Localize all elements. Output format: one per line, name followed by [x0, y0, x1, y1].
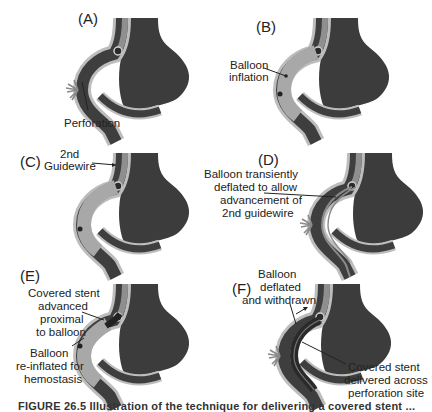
annotation-e-6: re-inflated for [16, 359, 84, 373]
annotation-e-2: advanced [38, 299, 88, 313]
annotation-e-1: Covered stent [28, 286, 100, 300]
annotation-d-3: advancement of [220, 193, 302, 207]
annotation-f-6: perforation site [348, 386, 424, 400]
panel-d: (D) Balloon transiently deflated to allo… [216, 135, 432, 270]
panel-f: (F) Balloon deflated and withdrawn Cover… [216, 270, 432, 400]
annotation-balloon-inflation-2: inflation [229, 70, 269, 84]
annotation-e-3: proximal [40, 312, 83, 326]
annotation-f-2: deflated [260, 280, 301, 294]
annotation-f-3: and withdrawn [242, 293, 316, 307]
panel-e: (E) Covered stent advanced proximal to b… [0, 270, 216, 400]
annotation-f-5: delivered across [344, 373, 428, 387]
annotation-f-1: Balloon [258, 267, 296, 281]
annotation-d-2: deflated to allow [214, 180, 297, 194]
annotation-f-4: Covered stent [348, 360, 420, 374]
panel-b: (B) Balloon inflation [216, 0, 432, 135]
balloon-reinflated [84, 324, 108, 382]
panel-c: (C) 2nd Guidewire [0, 135, 216, 270]
annotation-perforation: Perforation [64, 116, 120, 130]
figure-caption: FIGURE 26.5 Illustration of the techniqu… [18, 400, 415, 412]
annotation-guidewire: Guidewire [44, 159, 96, 173]
annotation-e-4: to balloon [36, 325, 86, 339]
annotation-d-1: Balloon transiently [204, 167, 298, 181]
vessel-diagram-c [0, 135, 216, 270]
annotation-d-4: 2nd guidewire [222, 206, 294, 220]
annotation-e-5: Balloon [30, 346, 68, 360]
vessel-diagram-a [0, 0, 216, 135]
annotation-e-7: hemostasis [24, 372, 82, 386]
panel-a: (A) Perforation [0, 0, 216, 135]
